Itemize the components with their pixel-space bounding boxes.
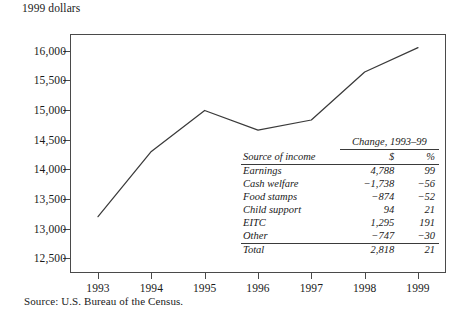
y-tick-label: 16,000 — [34, 45, 66, 57]
row-dollar-value: 4,788 — [340, 165, 405, 179]
span-header-cell: Change, 1993–99 — [340, 136, 439, 151]
table-row: Cash welfare−1,738−56 — [241, 178, 439, 191]
total-label: Total — [241, 244, 340, 258]
x-tick — [151, 272, 152, 279]
x-tick — [258, 272, 259, 279]
x-tick — [311, 272, 312, 279]
table-row: Food stamps−874−52 — [241, 191, 439, 204]
y-tick-label: 13,000 — [34, 223, 66, 235]
x-tick — [418, 272, 419, 279]
change-table-body: Earnings4,78899Cash welfare−1,738−56Food… — [241, 165, 439, 258]
y-tick-label: 15,500 — [34, 74, 66, 86]
row-percent-value: −30 — [405, 230, 439, 244]
total-dollar-value: 2,818 — [340, 244, 405, 258]
y-tick-label: 14,000 — [34, 163, 66, 175]
x-tick — [365, 272, 366, 279]
row-percent-value: −56 — [405, 178, 439, 191]
span-header-label: Change, 1993–99 — [340, 137, 439, 150]
row-dollar-value: 1,295 — [340, 217, 405, 230]
total-percent-value: 21 — [405, 244, 439, 258]
x-tick-label: 1993 — [72, 282, 124, 294]
x-tick-label: 1994 — [125, 282, 177, 294]
column-header-row: Source of income $ % — [241, 151, 439, 165]
row-percent-value: −52 — [405, 191, 439, 204]
change-table: Change, 1993–99 Source of income $ % Ear… — [241, 136, 439, 257]
table-row: Earnings4,78899 — [241, 165, 439, 179]
x-tick-label: 1998 — [339, 282, 391, 294]
x-tick — [98, 272, 99, 279]
y-tick-label: 14,500 — [34, 134, 66, 146]
table-row: Other−747−30 — [241, 230, 439, 244]
row-label: Cash welfare — [241, 178, 340, 191]
row-label: Child support — [241, 204, 340, 217]
row-dollar-value: −1,738 — [340, 178, 405, 191]
row-dollar-value: −874 — [340, 191, 405, 204]
source-note: Source: U.S. Bureau of the Census. — [24, 295, 183, 307]
column-header-dollar: $ — [340, 151, 405, 165]
column-header-source: Source of income — [241, 151, 340, 165]
x-tick-label: 1997 — [285, 282, 337, 294]
inset-change-table: Change, 1993–99 Source of income $ % Ear… — [241, 136, 439, 257]
row-label: Other — [241, 230, 340, 244]
y-axis-caption: 1999 dollars — [22, 2, 80, 14]
x-tick-label: 1995 — [179, 282, 231, 294]
row-label: Food stamps — [241, 191, 340, 204]
table-row: EITC1,295191 — [241, 217, 439, 230]
row-percent-value: 99 — [405, 165, 439, 179]
y-tick-label: 15,000 — [34, 104, 66, 116]
row-label: Earnings — [241, 165, 340, 179]
table-row: Child support9421 — [241, 204, 439, 217]
table-total-row: Total2,81821 — [241, 244, 439, 258]
x-tick-label: 1999 — [392, 282, 444, 294]
span-header-row: Change, 1993–99 — [241, 136, 439, 151]
row-dollar-value: 94 — [340, 204, 405, 217]
row-dollar-value: −747 — [340, 230, 405, 244]
row-percent-value: 21 — [405, 204, 439, 217]
span-header-spacer — [241, 136, 340, 151]
change-table-head: Change, 1993–99 Source of income $ % — [241, 136, 439, 165]
row-percent-value: 191 — [405, 217, 439, 230]
y-tick-label: 13,500 — [34, 193, 66, 205]
x-tick-label: 1996 — [232, 282, 284, 294]
figure-root: 1999 dollars 12,50013,00013,50014,00014,… — [0, 0, 463, 319]
column-header-percent: % — [405, 151, 439, 165]
row-label: EITC — [241, 217, 340, 230]
y-tick-label: 12,500 — [34, 252, 66, 264]
x-tick — [205, 272, 206, 279]
